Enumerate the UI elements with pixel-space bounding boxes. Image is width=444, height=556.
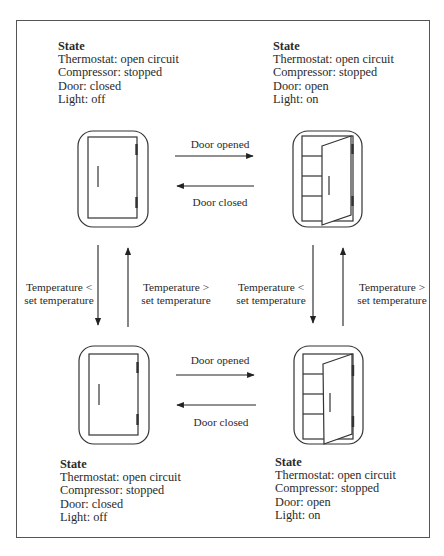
diagram-graphics <box>0 0 444 556</box>
refrigerator-open-icon <box>293 131 362 227</box>
refrigerator-closed-icon <box>78 131 148 227</box>
refrigerator-closed-icon <box>79 346 149 444</box>
refrigerator-open-icon <box>294 346 363 444</box>
